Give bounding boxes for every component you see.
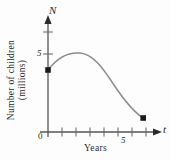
y-axis-title-line1: Number of children: [6, 40, 16, 120]
y-axis-arrowhead: [44, 15, 51, 24]
graph-figure: N t 5 0 5 Years Number of children (mill…: [0, 0, 171, 161]
x-axis-title: Years: [84, 144, 107, 154]
y-tick-label-5: 5: [37, 49, 42, 58]
y-axis-title-line2: (millions): [17, 40, 28, 120]
x-axis-variable-label: t: [163, 124, 166, 135]
curve-end-point: [140, 115, 146, 121]
y-axis-variable-label: N: [49, 5, 56, 16]
curve-start-point: [45, 67, 51, 73]
origin-label: 0: [38, 132, 43, 141]
x-tick-label-5: 5: [121, 136, 126, 145]
y-axis-title: Number of children (millions): [4, 24, 30, 136]
data-curve: [48, 53, 143, 118]
x-axis-arrowhead: [153, 128, 162, 135]
